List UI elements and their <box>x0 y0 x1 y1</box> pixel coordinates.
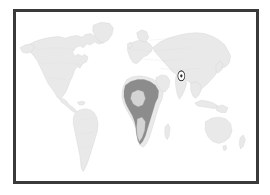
range-overlay-region: Sub-Saharan Africa <box>0 0 1 1</box>
distribution-map-figure: World distribution map <box>0 0 270 195</box>
marker-label: ring-and-dot <box>0 0 1 1</box>
target-marker[interactable] <box>177 70 186 82</box>
marker-center-dot <box>180 74 182 77</box>
map-frame <box>13 9 259 184</box>
world-map-canvas <box>16 12 256 181</box>
figure-title: World distribution map <box>0 21 1 22</box>
range-overlay-label: Distribution range <box>0 0 1 1</box>
figure-caption <box>0 0 1 1</box>
